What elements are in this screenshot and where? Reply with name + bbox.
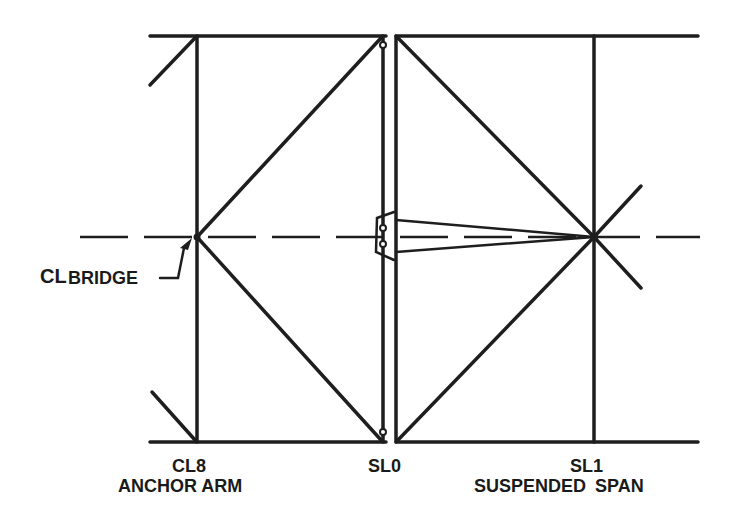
caption-suspended-span: SUSPENDED SPAN xyxy=(474,476,644,496)
node-cl8 xyxy=(194,234,201,241)
diagonal-sl1-down-stub xyxy=(594,237,641,288)
diagonal-sl1-up-stub xyxy=(594,186,641,237)
diagonal-cl8-down xyxy=(197,237,381,440)
truss-diagram xyxy=(0,0,733,528)
pin-bottom xyxy=(380,429,386,435)
leader-arrow-icon xyxy=(180,238,192,250)
caption-anchor-arm: ANCHOR ARM xyxy=(118,476,242,496)
node-label-sl0: SL0 xyxy=(368,456,401,476)
pin-bracket-upper xyxy=(380,225,386,231)
centerline-leader xyxy=(160,248,184,278)
node-sl1 xyxy=(590,233,598,241)
diagonal-left-lower-stub xyxy=(152,392,195,440)
node-label-cl8: CL8 xyxy=(172,456,206,476)
hanger-upper xyxy=(396,220,594,237)
node-label-sl1: SL1 xyxy=(570,456,603,476)
hanger-lower xyxy=(396,237,594,252)
pin-bracket-lower xyxy=(380,241,386,247)
diagonal-left-upper-stub xyxy=(150,38,195,85)
centerline-label: BRIDGE xyxy=(68,268,138,288)
diagonal-sl0-top-to-sl1 xyxy=(398,38,594,237)
pin-top xyxy=(380,42,386,48)
diagonal-cl8-up xyxy=(197,38,381,237)
diagonal-sl0-bottom-to-sl1 xyxy=(398,237,594,440)
centerline-symbol: CL xyxy=(40,266,67,286)
